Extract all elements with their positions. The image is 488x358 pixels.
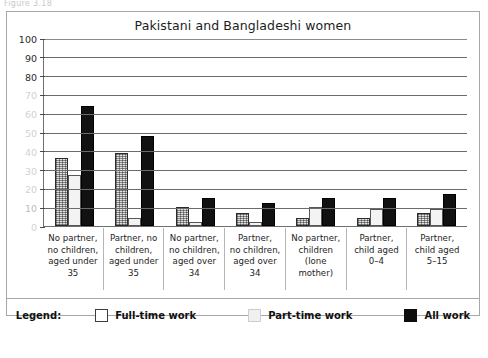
gridline <box>44 133 467 134</box>
x-axis-label-line: Partner, <box>408 233 466 245</box>
bar-fulltime <box>176 207 189 226</box>
x-axis-label: No partner,no children,aged over34 <box>164 228 225 290</box>
x-axis-label-line: No partner, <box>44 233 102 245</box>
bar-parttime <box>430 209 443 226</box>
plot-area: 0102030405060708090100 <box>7 39 479 251</box>
bar-fulltime <box>296 218 309 226</box>
gridline <box>44 189 467 190</box>
x-axis-label: Partner,child aged5–15 <box>407 228 467 290</box>
x-axis-label-line: no children, <box>226 245 284 257</box>
bar-parttime <box>189 222 202 226</box>
bar-parttime <box>249 222 262 226</box>
gridline <box>44 170 467 171</box>
x-axis-label-line: no children, <box>44 245 102 257</box>
legend: Legend: Full-time workPart-time workAll … <box>7 302 479 328</box>
y-axis-tick-label: 20 <box>25 184 37 195</box>
x-axis-label-line: 0–4 <box>348 256 406 268</box>
legend-entry[interactable]: Full-time work <box>95 309 196 322</box>
x-axis-label-line: aged over <box>165 256 223 268</box>
y-tick-mark <box>40 189 45 190</box>
y-tick-mark <box>40 76 45 77</box>
gridline <box>44 114 467 115</box>
x-axis-label-line: aged under <box>105 256 163 268</box>
y-axis-tick-label: 60 <box>25 109 37 120</box>
y-tick-mark <box>40 170 45 171</box>
bar-allwork <box>443 194 456 226</box>
x-axis-label-line: aged under <box>44 256 102 268</box>
x-axis-label-line: child aged <box>408 245 466 257</box>
y-tick-mark <box>40 208 45 209</box>
bar-allwork <box>322 198 335 226</box>
y-axis-tick-label: 70 <box>25 90 37 101</box>
x-axis-label: No partner,no children,aged under35 <box>43 228 104 290</box>
x-axis-label: Partner,child aged0–4 <box>347 228 408 290</box>
figure-caption: Figure 3.18 <box>4 0 52 8</box>
legend-label: Full-time work <box>115 310 196 321</box>
y-tick-mark <box>40 39 45 40</box>
y-axis-tick-label: 0 <box>31 222 37 233</box>
x-axis-label: No partner,children(lonemother) <box>286 228 347 290</box>
x-axis-label-line: mother) <box>287 268 345 280</box>
x-axis-label-line: no children, <box>165 245 223 257</box>
y-axis: 0102030405060708090100 <box>7 39 41 229</box>
x-axis-label-line: children <box>287 245 345 257</box>
y-axis-tick-label: 30 <box>25 165 37 176</box>
bar-parttime <box>370 209 383 226</box>
bar-fulltime <box>55 158 68 226</box>
bar-fulltime <box>417 213 430 226</box>
bar-parttime <box>128 218 141 226</box>
bar-allwork <box>141 136 154 226</box>
x-axis-label-line: Partner, no <box>105 233 163 245</box>
legend-swatch-icon <box>95 309 108 322</box>
plot-canvas <box>43 39 467 227</box>
x-axis-label-line: 35 <box>44 268 102 280</box>
y-tick-mark <box>40 114 45 115</box>
x-axis-label-line: aged over <box>226 256 284 268</box>
x-axis-label-line: No partner, <box>165 233 223 245</box>
y-tick-mark <box>40 57 45 58</box>
bar-fulltime <box>357 218 370 226</box>
legend-entry[interactable]: All work <box>404 309 470 322</box>
x-axis-label-line: 34 <box>165 268 223 280</box>
chart-title: Pakistani and Bangladeshi women <box>7 12 479 33</box>
legend-title: Legend: <box>16 310 61 321</box>
y-axis-tick-label: 40 <box>25 146 37 157</box>
y-tick-mark <box>40 95 45 96</box>
legend-swatch-icon <box>248 309 261 322</box>
y-axis-tick-label: 10 <box>25 203 37 214</box>
y-axis-tick-label: 50 <box>25 128 37 139</box>
bar-fulltime <box>236 213 249 226</box>
gridline <box>44 208 467 209</box>
bar-allwork <box>383 198 396 226</box>
bar-parttime <box>68 175 81 226</box>
x-axis-label-line: (lone <box>287 256 345 268</box>
bar-parttime <box>309 207 322 226</box>
x-axis-label-line: 35 <box>105 268 163 280</box>
x-axis-label-line: children, <box>105 245 163 257</box>
x-axis-label-line: child aged <box>348 245 406 257</box>
chart-container: Pakistani and Bangladeshi women 01020304… <box>6 11 480 316</box>
x-axis-label: Partner,no children,aged over34 <box>225 228 286 290</box>
x-axis-label-line: No partner, <box>287 233 345 245</box>
y-tick-mark <box>40 133 45 134</box>
gridline <box>44 76 467 77</box>
x-axis-label: Partner, nochildren,aged under35 <box>104 228 165 290</box>
y-axis-tick-label: 100 <box>19 34 37 45</box>
y-axis-tick-label: 80 <box>25 71 37 82</box>
x-axis-label-line: 34 <box>226 268 284 280</box>
y-tick-mark <box>40 151 45 152</box>
x-axis-label-line: 5–15 <box>408 256 466 268</box>
legend-label: Part-time work <box>268 310 352 321</box>
x-axis-label-line: Partner, <box>348 233 406 245</box>
legend-entry[interactable]: Part-time work <box>248 309 352 322</box>
legend-divider <box>7 298 479 299</box>
gridline <box>44 151 467 152</box>
gridline <box>44 39 467 40</box>
legend-label: All work <box>424 310 470 321</box>
x-axis-label-line: Partner, <box>226 233 284 245</box>
gridline <box>44 57 467 58</box>
y-axis-tick-label: 90 <box>25 52 37 63</box>
bar-allwork <box>202 198 215 226</box>
x-axis-labels: No partner,no children,aged under35Partn… <box>43 228 467 290</box>
gridline <box>44 95 467 96</box>
